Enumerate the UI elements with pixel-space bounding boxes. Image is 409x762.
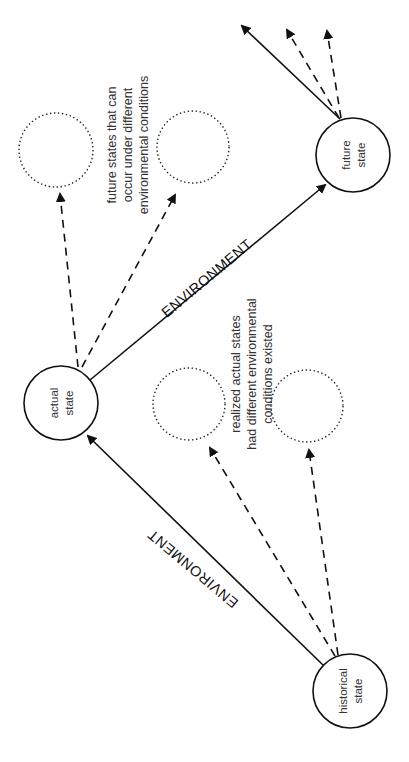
node-actual-label-2: state [63, 391, 75, 416]
edge-future-out-dashed-1 [287, 30, 339, 118]
annotation-realized-line-2: had different environmental [245, 298, 259, 449]
edge-label-environment-upper: ENVIRONMENT [158, 236, 255, 321]
edge-historical-to-actual [88, 436, 323, 665]
ghost-realized-state-1 [153, 368, 225, 440]
node-historical-label-2: state [352, 679, 364, 704]
node-future-label-2: state [355, 143, 367, 168]
edge-actual-to-future-alt-1 [60, 194, 78, 367]
node-actual-label-1: actual [48, 388, 60, 419]
node-historical-state: historical state [313, 654, 387, 728]
annotation-future-line-2: occur under different [121, 87, 135, 202]
node-future-label-1: future [340, 140, 352, 169]
annotation-future-alternatives: future states that can occur under diffe… [105, 76, 151, 214]
node-future-state: future state [316, 118, 390, 192]
annotation-future-line-3: environmental conditions [137, 76, 151, 214]
annotation-future-line-1: future states that can [105, 87, 119, 204]
node-actual-state: actual state [24, 366, 98, 440]
ghost-future-state-2 [157, 111, 229, 183]
annotation-realized-line-3: conditions existed [261, 324, 275, 423]
edge-future-out-dashed-2 [327, 31, 341, 118]
edge-future-out-solid [242, 26, 340, 119]
annotation-realized-alternatives: realized actual states had different env… [229, 298, 275, 449]
node-historical-label-1: historical [337, 668, 349, 713]
ghost-future-state-1 [19, 113, 93, 187]
annotation-realized-line-1: realized actual states [229, 315, 243, 432]
edge-historical-to-realized-1 [210, 448, 335, 656]
edge-actual-to-future-alt-2 [82, 195, 175, 367]
state-transition-diagram: future state actual state historical sta… [0, 0, 409, 762]
edge-historical-to-realized-2 [309, 450, 338, 655]
ghost-realized-state-2 [271, 370, 343, 442]
